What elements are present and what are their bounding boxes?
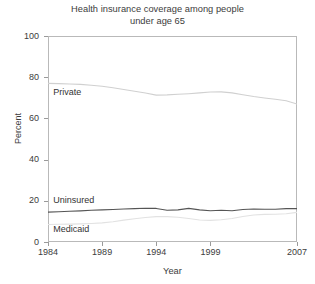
x-axis-label: Year (48, 266, 297, 276)
series-line-private (48, 83, 297, 104)
series-line-medicaid (48, 212, 297, 224)
y-tick-label: 20 (5, 196, 39, 205)
series-label-private: Private (53, 88, 81, 97)
series-label-medicaid: Medicaid (53, 225, 89, 234)
plot-lines (48, 36, 297, 242)
x-tick-mark (102, 242, 103, 246)
x-tick-label: 1999 (190, 248, 230, 257)
y-tick-mark (44, 77, 48, 78)
chart-title: Health insurance coverage among people u… (0, 3, 315, 27)
x-tick-label: 1989 (82, 248, 122, 257)
x-tick-label: 1984 (28, 248, 68, 257)
y-tick-mark (44, 201, 48, 202)
y-tick-label: 0 (5, 238, 39, 247)
y-tick-mark (44, 160, 48, 161)
y-tick-mark (44, 118, 48, 119)
y-axis-label: Percent (14, 99, 23, 159)
x-tick-mark (210, 242, 211, 246)
x-tick-mark (48, 242, 49, 246)
series-line-uninsured (48, 208, 297, 212)
y-tick-mark (44, 36, 48, 37)
x-tick-label: 1994 (136, 248, 176, 257)
chart-title-line-2: under age 65 (0, 15, 315, 27)
x-tick-label: 2007 (277, 248, 315, 257)
y-tick-label: 100 (5, 32, 39, 41)
y-tick-label: 80 (5, 73, 39, 82)
x-tick-mark (297, 242, 298, 246)
footer-fragment (4, 277, 311, 284)
chart-title-line-1: Health insurance coverage among people (0, 3, 315, 15)
x-tick-mark (156, 242, 157, 246)
series-label-uninsured: Uninsured (53, 196, 94, 205)
chart-figure: Health insurance coverage among people u… (0, 0, 315, 284)
